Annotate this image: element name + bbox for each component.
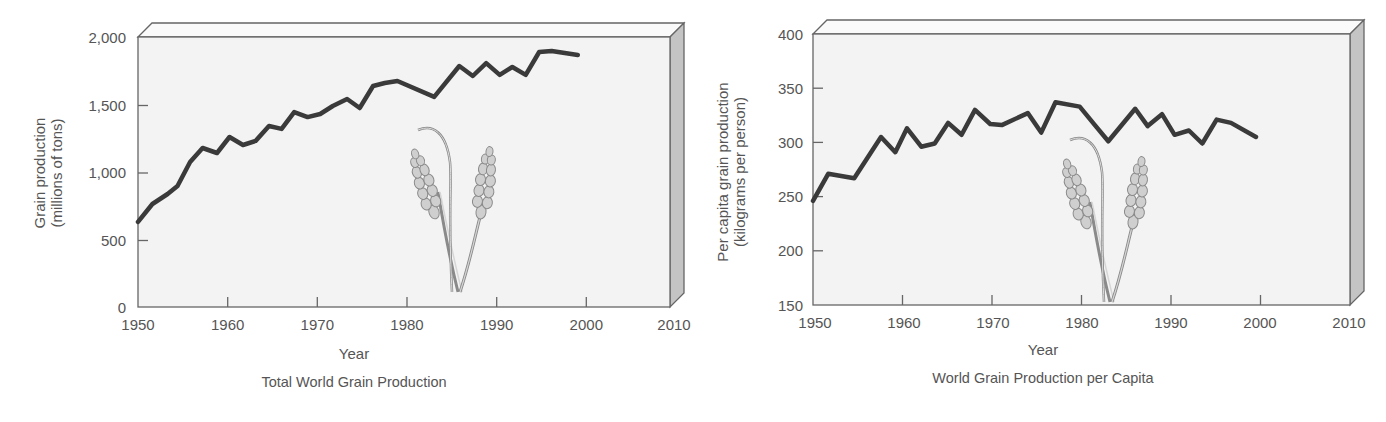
x-tick-label: 1960 <box>211 316 244 333</box>
x-tick-label: 1950 <box>121 316 154 333</box>
y-tick-label: 200 <box>778 242 803 259</box>
y-axis-title-line1: Per capita grain production <box>714 82 731 261</box>
chart-caption: Total World Grain Production <box>261 374 446 390</box>
x-axis-title: Year <box>1028 341 1058 358</box>
chart-total-grain: 0 500 1,000 1,500 2,000 1950 1960 1970 1… <box>31 23 691 390</box>
y-tick-label: 150 <box>778 297 803 314</box>
y-tick-label: 1,000 <box>88 164 126 181</box>
chart-caption: World Grain Production per Capita <box>932 370 1154 386</box>
y-tick-label: 300 <box>778 134 803 151</box>
y-axis-title-line1: Grain production <box>31 118 48 229</box>
y-tick-label: 350 <box>778 80 803 97</box>
x-tick-label: 1950 <box>798 314 831 331</box>
y-axis-title-line2: (millions of tons) <box>48 118 65 227</box>
x-tick-label: 2000 <box>570 316 603 333</box>
y-tick-labels: 0 500 1,000 1,500 2,000 <box>88 29 126 316</box>
y-tick-label: 250 <box>778 188 803 205</box>
x-tick-label: 1990 <box>480 316 513 333</box>
x-tick-label: 1960 <box>887 314 920 331</box>
y-tick-label: 500 <box>101 232 126 249</box>
y-tick-label: 1,500 <box>88 97 126 114</box>
x-tick-label: 2010 <box>657 316 690 333</box>
x-tick-label: 2000 <box>1243 314 1276 331</box>
y-tick-label: 400 <box>778 26 803 43</box>
chart-frame <box>813 20 1364 305</box>
y-tick-label: 2,000 <box>88 29 126 46</box>
x-tick-label: 1970 <box>976 314 1009 331</box>
chart-per-capita-grain: 150 200 250 300 350 400 1950 1960 1970 1… <box>714 20 1366 386</box>
x-tick-label: 2010 <box>1332 314 1365 331</box>
y-axis-title: Per capita grain production (kilograms p… <box>714 82 748 261</box>
figure: 0 500 1,000 1,500 2,000 1950 1960 1970 1… <box>0 0 1386 422</box>
y-axis-title: Grain production (millions of tons) <box>31 118 65 229</box>
y-tick-labels: 150 200 250 300 350 400 <box>778 26 803 314</box>
x-tick-labels: 1950 1960 1970 1980 1990 2000 2010 <box>121 316 690 333</box>
x-tick-labels: 1950 1960 1970 1980 1990 2000 2010 <box>798 314 1365 331</box>
y-tick-label: 0 <box>118 299 126 316</box>
x-tick-label: 1980 <box>1065 314 1098 331</box>
x-tick-label: 1970 <box>301 316 334 333</box>
x-axis-title: Year <box>339 345 369 362</box>
y-axis-title-line2: (kilograms per person) <box>731 97 748 247</box>
x-tick-label: 1980 <box>390 316 423 333</box>
x-tick-label: 1990 <box>1154 314 1187 331</box>
